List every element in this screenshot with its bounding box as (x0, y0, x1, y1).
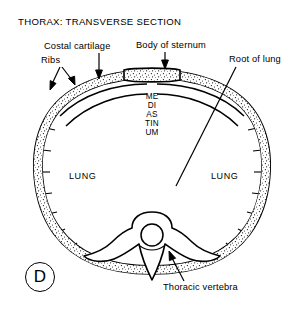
panel-letter-badge: D (25, 262, 55, 292)
label-lung-right: LUNG (208, 170, 241, 182)
label-lung-left: LUNG (66, 170, 99, 182)
leader-costal-cartilage (96, 53, 103, 79)
leader-body-of-sternum (162, 52, 169, 69)
label-body-of-sternum: Body of sternum (136, 41, 206, 51)
label-mediastinum: MEDIASTINUM (145, 92, 159, 137)
body-of-sternum (124, 68, 180, 82)
label-costal-cartilage: Costal cartilage (44, 42, 110, 52)
thorax-transverse-section-figure: THORAX: TRANSVERSE SECTION Costal cartil… (0, 0, 305, 328)
label-ribs: Ribs (41, 56, 60, 66)
leader-ribs (50, 67, 75, 90)
label-thoracic-vertebra: Thoracic vertebra (163, 283, 238, 293)
label-root-of-lung: Root of lung (229, 55, 281, 65)
figure-title: THORAX: TRANSVERSE SECTION (18, 17, 181, 27)
